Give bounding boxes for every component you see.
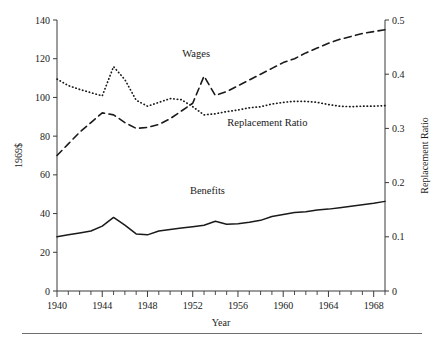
series-label-benefits: Benefits xyxy=(190,185,225,196)
y-axis-left-tick-label: 120 xyxy=(35,53,50,64)
x-axis-tick-label: 1960 xyxy=(273,300,293,311)
line-chart: 02040608010012014000.10.20.30.40.5194019… xyxy=(0,0,443,348)
y-axis-right-tick-label: 0.2 xyxy=(392,177,405,188)
y-axis-right-tick-label: 0.3 xyxy=(392,123,405,134)
series-label-wages: Wages xyxy=(182,48,210,59)
y-axis-right-tick-label: 0.4 xyxy=(392,69,405,80)
series-line-replacement-ratio xyxy=(57,67,385,115)
footer-divider xyxy=(22,333,422,334)
y-axis-left-tick-label: 40 xyxy=(40,208,50,219)
y-axis-right-title: Replacement Ratio xyxy=(419,117,430,193)
y-axis-left-tick-label: 0 xyxy=(45,286,50,297)
y-axis-left-tick-label: 80 xyxy=(40,131,50,142)
x-axis-tick-label: 1948 xyxy=(137,300,157,311)
y-axis-left-tick-label: 140 xyxy=(35,15,50,26)
x-axis-tick-label: 1956 xyxy=(228,300,248,311)
x-axis-tick-label: 1964 xyxy=(318,300,338,311)
chart-figure: 02040608010012014000.10.20.30.40.5194019… xyxy=(0,0,443,348)
y-axis-left-tick-label: 60 xyxy=(40,169,50,180)
y-axis-left-title: 1969$ xyxy=(13,143,24,168)
y-axis-right-tick-label: 0 xyxy=(392,286,397,297)
x-axis-tick-label: 1952 xyxy=(183,300,203,311)
y-axis-right-tick-label: 0.5 xyxy=(392,15,405,26)
y-axis-left-tick-label: 100 xyxy=(35,92,50,103)
series-line-wages xyxy=(57,30,385,156)
x-axis-title: Year xyxy=(212,317,231,328)
series-line-benefits xyxy=(57,201,385,236)
x-axis-tick-label: 1940 xyxy=(47,300,67,311)
y-axis-left-tick-label: 20 xyxy=(40,247,50,258)
x-axis-tick-label: 1944 xyxy=(92,300,112,311)
x-axis-tick-label: 1968 xyxy=(364,300,384,311)
series-label-replacement-ratio: Replacement Ratio xyxy=(227,117,307,128)
y-axis-right-tick-label: 0.1 xyxy=(392,231,405,242)
